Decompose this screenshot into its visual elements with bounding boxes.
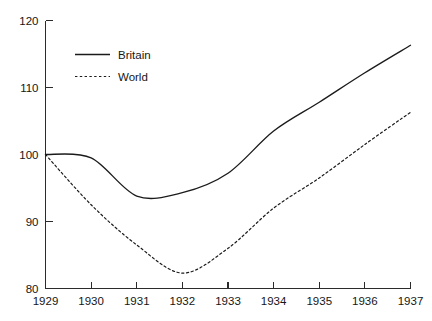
y-tick-label-120: 120 bbox=[19, 15, 38, 27]
x-axis-tick-labels: 192919301931193219331934193519361937 bbox=[33, 295, 424, 307]
x-tick-label-1934: 1934 bbox=[261, 295, 287, 307]
series-line-britain bbox=[46, 45, 411, 198]
y-tick-label-100: 100 bbox=[19, 149, 38, 161]
x-tick-label-1932: 1932 bbox=[170, 295, 196, 307]
legend-label-world: World bbox=[118, 71, 148, 83]
x-tick-label-1933: 1933 bbox=[215, 295, 241, 307]
chart-legend: Britain World bbox=[75, 49, 151, 83]
x-tick-label-1929: 1929 bbox=[33, 295, 59, 307]
x-tick-label-1937: 1937 bbox=[398, 295, 424, 307]
x-tick-label-1930: 1930 bbox=[78, 295, 104, 307]
x-axis-ticks bbox=[46, 282, 411, 289]
chart-canvas: 8090100110120 19291930193119321933193419… bbox=[0, 0, 432, 321]
y-tick-label-80: 80 bbox=[26, 283, 39, 295]
y-tick-label-90: 90 bbox=[26, 216, 39, 228]
x-tick-label-1935: 1935 bbox=[306, 295, 332, 307]
x-tick-label-1936: 1936 bbox=[352, 295, 378, 307]
line-chart: 8090100110120 19291930193119321933193419… bbox=[0, 0, 432, 321]
series-line-world bbox=[46, 112, 411, 273]
y-tick-label-110: 110 bbox=[20, 82, 38, 94]
x-tick-label-1931: 1931 bbox=[124, 295, 150, 307]
y-axis-tick-labels: 8090100110120 bbox=[19, 15, 38, 295]
legend-label-britain: Britain bbox=[118, 49, 151, 61]
